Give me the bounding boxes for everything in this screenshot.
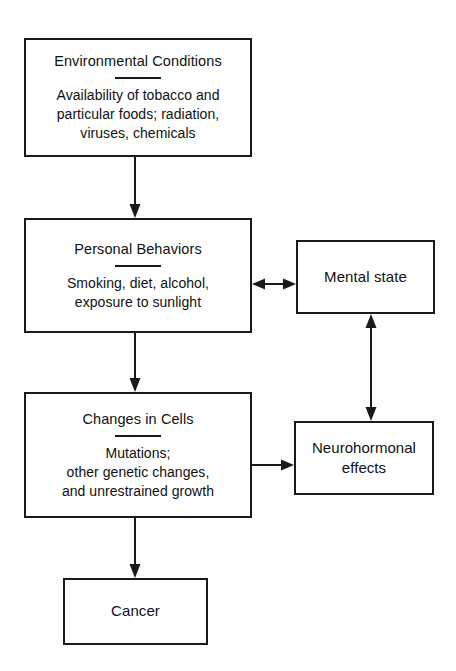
node-title: Cancer — [111, 602, 160, 621]
node-title: Environmental Conditions — [54, 52, 222, 70]
diagram-canvas: Environmental Conditions Availability of… — [0, 0, 456, 671]
node-divider-rule — [115, 435, 161, 437]
arrow-personal-to-changes — [128, 333, 142, 392]
node-divider-rule — [115, 77, 161, 79]
node-divider-rule — [115, 265, 161, 267]
node-changes-in-cells[interactable]: Changes in Cells Mutations; other geneti… — [24, 392, 252, 518]
node-environmental-conditions[interactable]: Environmental Conditions Availability of… — [24, 38, 252, 157]
node-title: Personal Behaviors — [74, 240, 202, 258]
arrow-changes-to-neurohormonal — [252, 458, 294, 472]
arrow-environmental-to-personal — [128, 157, 142, 218]
node-detail: Smoking, diet, alcohol, exposure to sunl… — [67, 274, 209, 312]
node-cancer[interactable]: Cancer — [63, 578, 208, 645]
node-title: Neurohormonal effects — [312, 438, 416, 479]
arrow-neurohormonal-to-mental-bidirectional — [364, 314, 378, 421]
node-personal-behaviors[interactable]: Personal Behaviors Smoking, diet, alcoho… — [24, 218, 252, 333]
node-mental-state[interactable]: Mental state — [296, 240, 435, 314]
arrow-changes-to-cancer — [128, 518, 142, 578]
node-title: Changes in Cells — [82, 410, 193, 428]
arrow-personal-to-mental-bidirectional — [252, 277, 296, 291]
node-title: Mental state — [324, 268, 407, 287]
node-detail: Mutations; other genetic changes, and un… — [62, 444, 214, 501]
node-neurohormonal-effects[interactable]: Neurohormonal effects — [294, 421, 434, 495]
node-detail: Availability of tobacco and particular f… — [57, 86, 220, 143]
